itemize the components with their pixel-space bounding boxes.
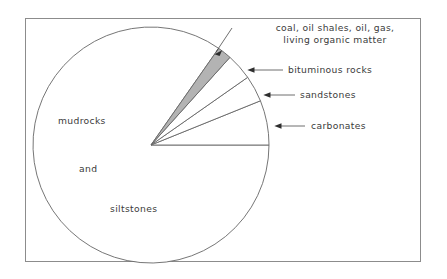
callout-label-coal-line2: living organic matter — [240, 34, 430, 46]
inner-label-and: and — [79, 163, 97, 175]
inner-label-mudrocks: mudrocks — [58, 115, 106, 127]
leader-line-coal — [216, 28, 232, 52]
arrowhead-carbonates-icon — [274, 123, 281, 129]
callout-label-carbonates: carbonates — [311, 120, 366, 132]
inner-label-siltstones: siltstones — [110, 203, 157, 215]
pie-chart-figure: coal, oil shales, oil, gas, living organ… — [0, 0, 447, 279]
arrowhead-sandstones-icon — [263, 92, 270, 98]
callout-label-bituminous: bituminous rocks — [288, 64, 372, 76]
callout-label-coal-line1: coal, oil shales, oil, gas, — [240, 22, 430, 34]
callout-label-coal: coal, oil shales, oil, gas, living organ… — [240, 22, 430, 45]
callout-label-sandstones: sandstones — [300, 89, 356, 101]
arrowhead-bituminous-icon — [247, 67, 254, 73]
